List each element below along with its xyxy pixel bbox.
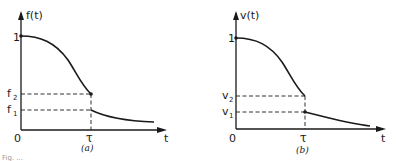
y-tick-f1-label: f xyxy=(7,103,12,116)
y-axis-label-a: f(t) xyxy=(26,9,43,22)
panel-a: f(t) t 0 1 f 2 f 1 τ (a) xyxy=(7,9,169,153)
curve-before-tau-a xyxy=(21,36,91,94)
figure-caption-fragment: Fig. ... xyxy=(2,154,23,161)
panel-caption-b: (b) xyxy=(296,145,309,155)
origin-label-a: 0 xyxy=(14,132,21,145)
panel-b: v(t) t 0 1 v 2 v 1 τ (b) xyxy=(222,9,386,155)
y-axis-arrow-a xyxy=(18,11,24,20)
y-tick-v2-label: v xyxy=(222,89,229,102)
y-tick-v1-subscript: 1 xyxy=(229,112,233,120)
x-axis-label-a: t xyxy=(164,132,169,145)
origin-label-b: 0 xyxy=(229,132,236,145)
y-tick-one-a: 1 xyxy=(13,31,20,44)
x-tick-tau-b: τ xyxy=(300,131,307,145)
curve-before-tau-b xyxy=(236,38,305,96)
y-tick-one-b: 1 xyxy=(228,32,235,45)
point-f2 xyxy=(89,92,93,96)
y-axis-arrow-b xyxy=(233,11,239,20)
x-axis-label-b: t xyxy=(381,132,386,145)
y-tick-f2-subscript: 2 xyxy=(13,94,17,102)
y-tick-f2-label: f xyxy=(7,87,12,100)
figure: f(t) t 0 1 f 2 f 1 τ (a) v(t) t 0 1 v 2 xyxy=(0,0,397,161)
y-tick-f1-subscript: 1 xyxy=(13,110,17,118)
y-tick-v1-label: v xyxy=(222,105,229,118)
y-tick-v2-subscript: 2 xyxy=(229,96,233,104)
panel-caption-a: (a) xyxy=(81,143,94,153)
curve-after-tau-a xyxy=(91,110,154,122)
curve-after-tau-b xyxy=(305,112,370,126)
y-axis-label-b: v(t) xyxy=(240,9,259,22)
